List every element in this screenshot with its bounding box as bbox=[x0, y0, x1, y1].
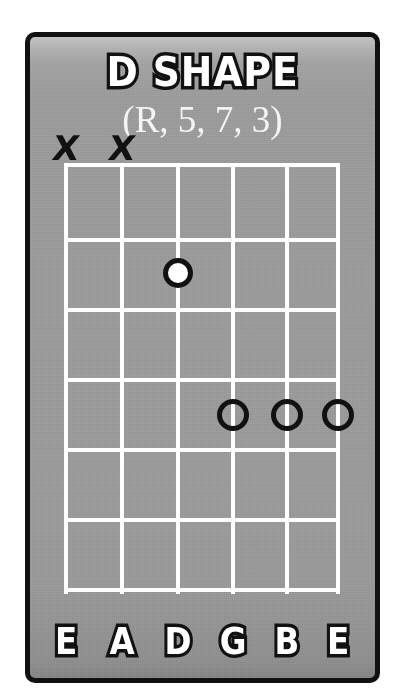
fret-marker-e-fret4 bbox=[322, 399, 354, 431]
mute-x-icon-string-1: X bbox=[105, 133, 140, 163]
string-label-1: A bbox=[102, 620, 142, 664]
fret-line-6 bbox=[64, 588, 340, 592]
fret-marker-b-fret4 bbox=[271, 399, 303, 431]
fretboard-grid: XXEADGBE bbox=[30, 37, 375, 678]
fret-marker-d-fret2 bbox=[163, 258, 193, 288]
fret-line-5 bbox=[64, 518, 340, 522]
fret-line-2 bbox=[64, 308, 340, 312]
string-label-5: E bbox=[318, 620, 358, 664]
fret-line-3 bbox=[64, 378, 340, 382]
string-label-3: G bbox=[213, 620, 253, 664]
string-label-4: B bbox=[267, 620, 307, 664]
chord-diagram-card: D SHAPE (R, 5, 7, 3) XXEADGBE bbox=[25, 32, 380, 683]
fret-marker-g-fret4 bbox=[217, 399, 249, 431]
mute-x-icon-string-0: X bbox=[49, 133, 84, 163]
string-label-0: E bbox=[46, 620, 86, 664]
fret-line-1 bbox=[64, 238, 340, 242]
string-label-2: D bbox=[158, 620, 198, 664]
fret-line-4 bbox=[64, 448, 340, 452]
